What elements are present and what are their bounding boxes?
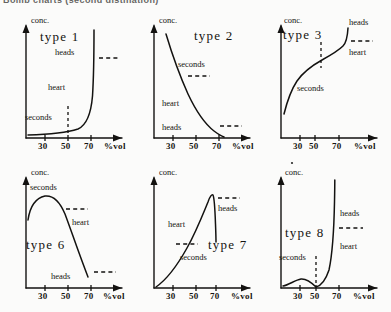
curve-type-7 (156, 195, 216, 287)
x-axis-label: %vol (231, 291, 253, 301)
tick-label-70: 70 (84, 291, 94, 301)
y-axis-arrow (151, 176, 158, 185)
tick-label-30: 30 (166, 291, 176, 301)
chart-panel-type-8: conc. heads heart type 8 seconds 30 50 7… (259, 156, 389, 308)
label-heads-type-6: heads (51, 271, 70, 281)
chart-title-type-8: type 8 (285, 225, 324, 240)
tick-label-50: 50 (310, 291, 320, 301)
tick-label-50: 50 (309, 141, 319, 150)
distillation-chart-figure: Bomb charts (second distillation) conc. … (0, 0, 391, 312)
chart-panel-type-2: conc. type 2 seconds heart heads 30 50 7… (132, 10, 260, 150)
x-axis-label: %vol (103, 291, 125, 301)
label-heads-type-1: heads (55, 47, 74, 57)
chart-panel-type-3: conc. type 3 heads heart seconds 30 50 7… (259, 10, 389, 150)
y-axis-label: conc. (159, 15, 177, 25)
y-axis-label: conc. (31, 167, 49, 177)
tick-label-70: 70 (84, 141, 94, 150)
label-heads-type-2: heads (162, 122, 181, 132)
x-axis-label: %vol (353, 291, 375, 301)
chart-panel-type-6: conc. seconds heart type 6 heads 30 50 7… (4, 162, 132, 308)
label-heart-type-1: heart (48, 82, 66, 92)
chart-title-type-2: type 2 (194, 28, 233, 43)
y-axis-label: conc. (31, 15, 49, 25)
chart-panel-type-1: conc. type 1 heads heart seconds 30 50 7… (4, 10, 132, 150)
tick-label-70: 70 (332, 291, 342, 301)
tick-label-30: 30 (293, 141, 303, 150)
label-heart-type-7: heart (168, 219, 186, 229)
y-axis-label: conc. (284, 15, 302, 25)
label-seconds-type-2: seconds (178, 59, 205, 69)
label-seconds-type-7: seconds (180, 252, 207, 262)
label-seconds-type-6: seconds (30, 182, 57, 192)
figure-caption: Bomb charts (second distillation) (3, 0, 263, 5)
tick-label-50: 50 (189, 291, 199, 301)
tick-label-30: 30 (293, 291, 303, 301)
x-axis-label: %vol (104, 141, 126, 150)
chart-panel-type-7: conc. heads heart type 7 seconds 30 50 7… (132, 162, 260, 308)
tick-label-30: 30 (166, 141, 176, 150)
tick-label-70: 70 (210, 291, 220, 301)
x-axis-label: %vol (232, 141, 254, 150)
label-heart-type-3: heart (349, 47, 367, 57)
y-axis-label: conc. (159, 167, 177, 177)
axes-type-7 (151, 176, 251, 292)
x-axis-label: %vol (354, 141, 376, 150)
y-axis-label: conc. (285, 167, 303, 177)
y-axis-arrow (23, 24, 30, 33)
tick-label-70: 70 (332, 141, 342, 150)
scan-speck (291, 162, 293, 164)
label-heart-type-2: heart (162, 98, 180, 108)
chart-title-type-6: type 6 (26, 237, 65, 252)
label-seconds-type-1: seconds (25, 112, 52, 122)
label-seconds-type-8: seconds (279, 252, 306, 262)
label-seconds-type-3: seconds (297, 83, 324, 93)
y-axis-arrow (151, 24, 158, 33)
y-axis-arrow (23, 176, 30, 185)
tick-label-50: 50 (189, 141, 199, 150)
tick-label-50: 50 (61, 291, 71, 301)
label-heads-type-3: heads (349, 17, 368, 27)
label-heart-type-6: heart (72, 217, 90, 227)
chart-title-type-1: type 1 (40, 29, 79, 44)
y-axis-arrow (278, 176, 285, 185)
tick-label-30: 30 (38, 291, 48, 301)
label-heads-type-8: heads (340, 208, 359, 218)
label-heart-type-8: heart (340, 241, 358, 251)
tick-label-50: 50 (61, 141, 71, 150)
chart-title-type-3: type 3 (283, 27, 322, 42)
tick-label-30: 30 (38, 141, 48, 150)
chart-title-type-7: type 7 (208, 237, 247, 252)
tick-label-70: 70 (212, 141, 222, 150)
label-heads-type-7: heads (218, 203, 237, 213)
